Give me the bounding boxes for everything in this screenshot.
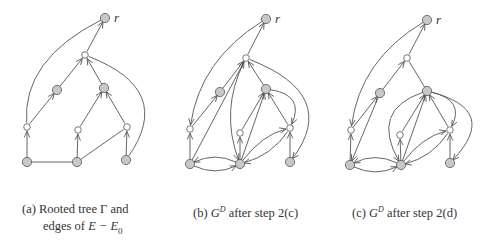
edge-lg-to-m — [383, 61, 405, 89]
caption-a-suffix: and — [107, 202, 128, 216]
edge-bm-to-rw — [404, 131, 446, 162]
edge-m-to-r — [409, 24, 425, 55]
node-br — [445, 158, 454, 167]
edge-lw-to-r — [26, 20, 101, 123]
node-rw — [447, 127, 454, 134]
root-label: r — [114, 10, 120, 25]
edge-bl-to-lw — [350, 134, 351, 161]
node-lw — [348, 127, 355, 134]
node-lg — [52, 85, 61, 94]
node-mw — [75, 127, 82, 134]
caption-a-line2: edges of — [43, 219, 88, 233]
edge-lg-to-m — [223, 61, 244, 88]
edge-bm-to-mw — [77, 134, 78, 158]
panel-c-gd-after-step-2d: r — [345, 12, 472, 172]
caption-b-prefix: (b) — [193, 206, 211, 220]
caption-c-suffix: after step 2(d) — [384, 206, 457, 220]
edge-m-to-bm — [230, 62, 244, 160]
node-mw — [397, 132, 404, 139]
edge-rw-to-rg — [429, 95, 448, 127]
edge-bm-to-mw — [400, 139, 401, 161]
edge-bm-to-rw — [243, 129, 286, 161]
node-rw — [287, 125, 294, 132]
edge-bl-to-m — [192, 62, 244, 161]
edge-bm-to-rg — [241, 93, 264, 160]
edge-bl-to-bm — [354, 167, 397, 172]
edge-rw-to-rg — [106, 92, 125, 124]
node-bl — [22, 157, 31, 166]
node-r — [100, 13, 109, 22]
edge-rg-to-m — [409, 62, 425, 88]
node-r — [422, 15, 431, 24]
edge-rg-to-m — [87, 59, 102, 85]
panel-a-rooted-tree: r — [22, 10, 144, 167]
node-bl — [185, 159, 194, 168]
panel-b-gd-after-step-2c: r — [185, 11, 309, 171]
node-m — [404, 55, 411, 62]
caption-b: (b) GD after step 2(c) — [193, 201, 298, 222]
edge-rw-to-bm — [244, 131, 288, 162]
edge-m-to-r — [248, 23, 264, 55]
node-rg — [261, 84, 270, 93]
edge-rw-to-bm — [405, 133, 448, 163]
caption-b-suffix: after step 2(c) — [226, 206, 299, 220]
node-mw — [237, 130, 244, 137]
edge-bm-to-bl — [194, 157, 236, 162]
node-m — [82, 52, 89, 59]
caption-a-math: E − E — [88, 219, 118, 233]
edge-br-to-m — [89, 57, 145, 157]
root-label: r — [275, 11, 281, 26]
node-rg — [99, 83, 108, 92]
edge-mw-to-rg — [80, 92, 102, 127]
edge-rw-to-rg — [268, 93, 288, 125]
node-bm — [72, 157, 81, 166]
node-m — [243, 55, 250, 62]
caption-c-g: G — [369, 206, 378, 220]
node-lw — [187, 126, 194, 133]
edge-r-to-lw — [352, 22, 424, 126]
node-br — [285, 157, 294, 166]
edge-br-to-rw — [126, 131, 127, 156]
node-lg — [215, 87, 224, 96]
node-lw — [24, 124, 31, 131]
node-rw — [124, 124, 131, 131]
node-br — [121, 155, 130, 164]
caption-c: (c) GD after step 2(d) — [352, 201, 457, 222]
edge-bm-to-bl — [354, 158, 398, 164]
node-bm — [396, 160, 405, 169]
edge-rg-to-rw — [431, 92, 455, 126]
edge-r-to-lw — [191, 21, 263, 125]
node-bm — [235, 159, 244, 168]
root-label: r — [436, 12, 442, 27]
node-rg — [422, 86, 431, 95]
edge-lw-to-lg — [30, 93, 55, 123]
edge-mw-to-rg — [242, 93, 264, 130]
caption-a-sub: 0 — [118, 226, 123, 236]
node-bl — [345, 160, 354, 169]
node-lg — [375, 88, 384, 97]
edge-bm-to-rw — [80, 129, 123, 159]
edge-bl-to-bm — [194, 166, 236, 171]
caption-c-prefix: (c) — [352, 206, 369, 220]
caption-a-prefix: (a) Rooted tree — [22, 202, 100, 216]
node-r — [261, 14, 270, 23]
caption-a: (a) Rooted tree Γ and edges of E − E0 — [22, 201, 129, 240]
edge-lg-to-m — [60, 58, 83, 86]
caption-b-g: G — [211, 206, 220, 220]
edge-bm-to-rg — [402, 95, 425, 161]
edge-rg-to-m — [248, 62, 263, 86]
edge-rg-to-rw — [270, 90, 295, 125]
